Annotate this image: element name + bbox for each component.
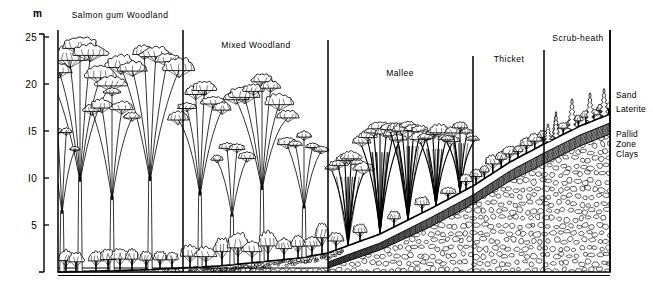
y-axis-tick-label: 5: [31, 220, 37, 231]
clay-pebble: [362, 276, 367, 280]
clay-pebble: [319, 274, 327, 279]
y-axis: 2520I5I05m: [25, 8, 49, 272]
clay-pebble: [490, 276, 499, 281]
crown-twig: [46, 74, 49, 79]
tree-crown: [60, 128, 72, 133]
clay-pebble: [312, 273, 318, 278]
y-axis-tick-label: I5: [28, 126, 37, 137]
clay-pebble: [407, 276, 412, 281]
crown-twig: [48, 147, 49, 149]
clay-pebble: [95, 278, 102, 282]
crown-twig: [611, 106, 612, 109]
tree: [223, 74, 299, 262]
clay-pebble: [599, 274, 604, 278]
crown-twig: [52, 147, 53, 149]
clay-pebble: [514, 276, 519, 282]
clay-pebble: [442, 276, 448, 282]
clay-pebble: [471, 277, 480, 281]
clay-pebble: [197, 274, 204, 278]
clay-pebble: [290, 276, 296, 281]
tree-branch: [62, 133, 66, 214]
shrub: [276, 237, 292, 259]
clay-pebble: [354, 276, 360, 280]
vegetation-soil-transect-diagram: 2520I5I05m Salmon gum WoodlandMixed Wood…: [0, 0, 653, 287]
clay-pebble: [390, 277, 396, 282]
tree-branch: [217, 160, 232, 216]
crown-twig: [49, 74, 52, 79]
clay-pebble: [275, 276, 282, 281]
clay-pebble: [607, 277, 614, 282]
clay-pebble: [534, 276, 540, 281]
clay-pebble: [399, 276, 406, 280]
y-axis-tick-label: I0: [28, 173, 37, 184]
crown-twig: [54, 132, 58, 135]
tree-branch: [262, 118, 288, 190]
clay-pebble: [75, 273, 81, 279]
crown-twig: [53, 130, 54, 132]
clay-pebble: [611, 252, 616, 257]
tree: [42, 128, 80, 272]
clay-pebble: [111, 276, 116, 281]
crown-twig: [56, 53, 57, 59]
clay-pebble: [376, 274, 382, 279]
tree-branch: [144, 55, 150, 182]
shrub: [153, 251, 166, 269]
tree-trunk: [302, 206, 306, 257]
y-axis-unit-label: m: [33, 8, 42, 19]
y-axis-tick-label: 25: [25, 32, 37, 43]
tree-branch: [304, 151, 321, 208]
tree-branch: [178, 120, 200, 195]
figure-root: 2520I5I05m Salmon gum WoodlandMixed Wood…: [0, 0, 653, 287]
tree-branch: [304, 148, 313, 209]
zone-label: Mallee: [386, 68, 414, 78]
tree-branch: [196, 95, 200, 196]
tree-crown: [46, 64, 72, 73]
clay-pebble: [507, 275, 513, 280]
soil-horizon-label: Zone: [616, 139, 636, 149]
tree-branch: [150, 57, 156, 181]
soil-horizon-label: Laterite: [616, 104, 646, 114]
tree-branch: [92, 111, 112, 199]
zone-label: Mixed Woodland: [221, 40, 290, 50]
clay-pebble: [586, 276, 591, 281]
crown-twig: [49, 68, 50, 72]
clay-pebble: [159, 277, 167, 281]
crown-twig: [49, 149, 53, 152]
tree-crown: [123, 112, 140, 118]
clay-pebble: [483, 274, 488, 279]
crown-twig: [52, 71, 53, 75]
clay-pebble: [132, 276, 138, 280]
clay-pebble: [61, 276, 67, 280]
clay-pebble: [225, 276, 232, 280]
clay-pebble: [282, 276, 289, 280]
clay-pebble: [203, 275, 209, 281]
tree: [82, 87, 140, 270]
clay-pebble: [594, 276, 600, 281]
clay-pebble: [328, 275, 334, 281]
zone-label: Salmon gum Woodland: [72, 10, 169, 20]
zone-label: Scrub-heath: [552, 33, 603, 43]
clay-pebble: [610, 166, 616, 170]
soil-horizon-label: Clays: [616, 149, 638, 159]
tree-branch: [49, 149, 62, 213]
tree-crown: [328, 232, 344, 241]
soil-horizon-label: Sand: [616, 90, 637, 100]
tree-crown: [103, 87, 121, 93]
tree-crown: [211, 155, 223, 161]
tree-branch: [227, 148, 232, 216]
clay-pebble: [612, 178, 617, 183]
tree-branch: [296, 145, 305, 208]
zone-label: Thicket: [494, 54, 525, 64]
clay-pebble: [611, 223, 617, 227]
clay-pebble: [269, 276, 274, 280]
tree-branch: [112, 118, 132, 200]
clay-pebble: [51, 270, 56, 274]
clay-pebble: [80, 274, 85, 278]
soil-horizon-label: Pallid: [616, 129, 638, 139]
tree-branch: [200, 91, 204, 196]
clay-pebble: [414, 274, 419, 278]
clay-pebble: [239, 277, 245, 280]
tree-crown: [276, 237, 292, 248]
crown-twig: [40, 71, 41, 75]
crown-twig: [50, 147, 52, 149]
